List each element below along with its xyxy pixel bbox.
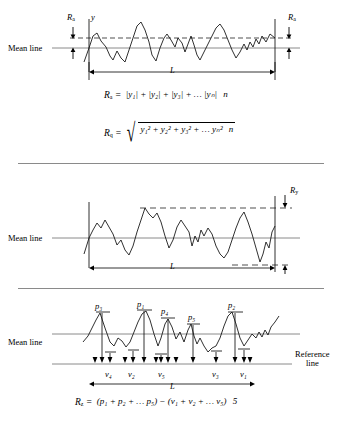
formula-rz-lhs: Rz: [75, 397, 83, 407]
radical-icon: √: [127, 122, 136, 143]
formula-rq-lhs: Rq: [104, 128, 113, 138]
formula-rz-numerator: (p₁ + p₂ + … p₅) − (v₁ + v₂ + … v₅): [95, 396, 229, 406]
panel-rz: Mean line Reference line L p₃ p₁ p₄ p₅ p…: [0, 294, 342, 439]
panel-divider-1: [18, 163, 324, 164]
formula-rq-denominator: n: [227, 124, 236, 134]
panel-divider-2: [18, 288, 324, 289]
length-dimension-2: [0, 170, 342, 285]
formula-rq-equals: =: [116, 128, 121, 138]
formula-rz-fraction: (p₁ + p₂ + … p₅) − (v₁ + v₂ + … v₅) 5: [95, 396, 239, 407]
formula-rq: Rq = √ y₁² + y₂² + y₃² + … yₙ² n: [104, 122, 235, 143]
formula-ra-fraction: |y₁| + |y₂| + |y₃| + … |yₙ| n: [124, 89, 230, 100]
formula-ra-denominator: n: [221, 89, 230, 99]
formula-ra-equals: =: [115, 90, 120, 100]
formula-rz: Rz = (p₁ + p₂ + … p₅) − (v₁ + v₂ + … v₅)…: [75, 396, 239, 407]
length-dimension-3: [0, 294, 342, 439]
panel-ry: Mean line Ry L: [0, 170, 342, 285]
formula-rz-denominator: 5: [231, 396, 240, 406]
formula-rz-equals: =: [86, 397, 91, 407]
formula-rq-radical: √ y₁² + y₂² + y₃² + … yₙ² n: [124, 122, 235, 143]
formula-ra: Ra = |y₁| + |y₂| + |y₃| + … |yₙ| n: [104, 89, 230, 100]
formula-ra-numerator: |y₁| + |y₂| + |y₃| + … |yₙ|: [124, 89, 219, 99]
formula-rq-numerator: y₁² + y₂² + y₃² + … yₙ²: [138, 124, 224, 134]
formula-ra-lhs: Ra: [104, 90, 112, 100]
panel-ra-rq: Mean line Ra y Ra L Ra =: [0, 0, 342, 158]
